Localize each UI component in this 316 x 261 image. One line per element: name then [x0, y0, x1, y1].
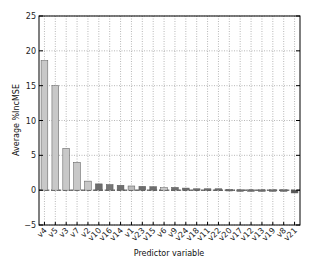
bar-v10	[95, 184, 102, 190]
y-tick-label: 25	[26, 12, 36, 21]
y-axis-label: Average %IncMSE	[12, 84, 21, 156]
bar-v4	[41, 61, 48, 191]
bar-chart: −50510152025 v4v5v3v7v2v10v16v14v1v23v15…	[0, 0, 316, 261]
bar-v17	[237, 190, 244, 192]
bar-v3	[63, 148, 70, 190]
y-tick-label: 20	[26, 47, 36, 56]
bar-v14	[117, 185, 124, 190]
bar-v1	[128, 186, 135, 190]
y-tick-label: −5	[24, 221, 36, 230]
x-tick-label: v19	[260, 226, 277, 243]
bar-v5	[52, 86, 59, 190]
y-tick-label: 0	[31, 186, 36, 195]
bar-v12	[248, 190, 255, 192]
bar-v6	[161, 188, 168, 190]
bar-v11	[204, 189, 211, 191]
x-tick-label: v15	[141, 226, 158, 243]
bar-v13	[259, 190, 266, 192]
y-axis-ticks: −50510152025	[24, 12, 300, 230]
bar-v9	[172, 187, 179, 190]
y-tick-label: 10	[26, 117, 36, 126]
x-tick-label: v14	[108, 226, 125, 243]
gridlines	[39, 16, 300, 225]
y-tick-label: 15	[26, 82, 36, 91]
bar-v19	[269, 190, 276, 192]
bar-v23	[139, 186, 146, 190]
bar-v22	[215, 189, 222, 191]
bar-v15	[150, 187, 157, 190]
x-axis-label: Predictor variable	[134, 249, 205, 258]
x-tick-label: v21	[282, 226, 299, 243]
bars	[41, 61, 298, 193]
bar-v20	[226, 189, 233, 191]
y-tick-label: 5	[31, 151, 36, 160]
bar-v24	[182, 188, 189, 190]
bar-v16	[106, 185, 113, 191]
bar-v2	[85, 181, 92, 190]
bar-v18	[193, 189, 200, 191]
bar-v7	[74, 162, 81, 190]
bar-v8	[280, 190, 287, 192]
